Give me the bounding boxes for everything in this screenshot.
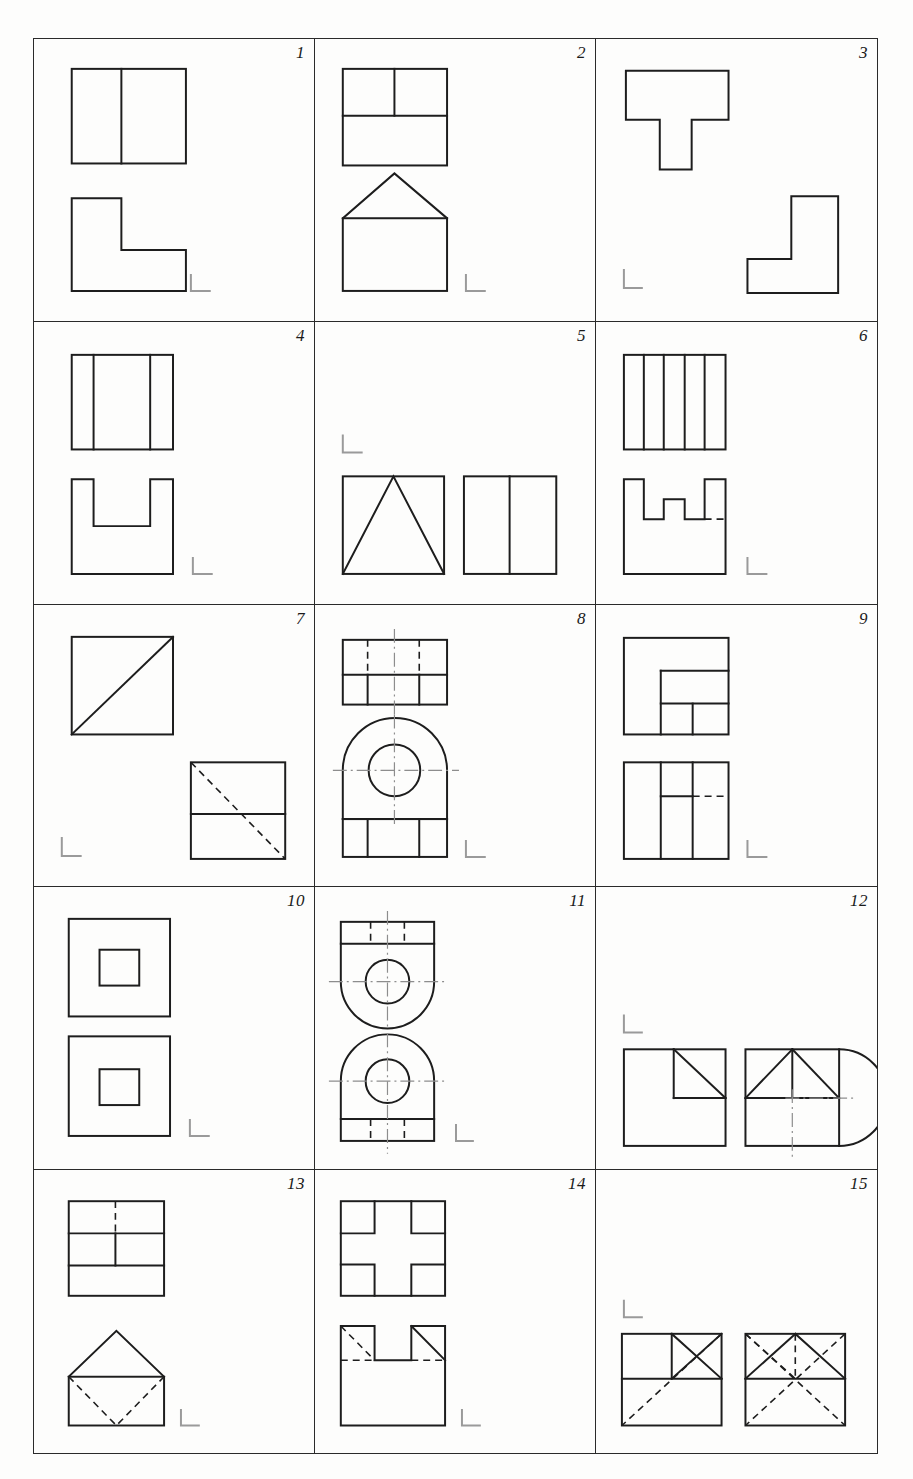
cell-4-drawing xyxy=(34,322,314,604)
worksheet-page: 1 xyxy=(0,0,913,1479)
front-view-crenellated-block xyxy=(624,479,726,574)
top-view-three-band-rectangle xyxy=(69,1201,164,1296)
sheet-border: 1 xyxy=(33,38,878,1454)
front-view-house-with-hidden-vee xyxy=(69,1331,164,1426)
exercise-cell-1[interactable]: 1 xyxy=(34,39,315,322)
view-square-with-semicircular-boss xyxy=(745,1050,877,1159)
corner-mark xyxy=(193,557,213,574)
exercise-cell-2[interactable]: 2 xyxy=(315,39,596,322)
view-square-with-diagonal xyxy=(72,636,173,734)
cell-9-drawing xyxy=(596,605,877,887)
top-view-square-with-tee-division xyxy=(343,69,447,166)
exercise-cell-10[interactable]: 10 xyxy=(34,887,315,1170)
exercise-cell-9[interactable]: 9 xyxy=(596,605,877,888)
cell-5-drawing xyxy=(315,322,595,604)
front-view-square-with-top-notch xyxy=(72,479,173,574)
corner-mark xyxy=(462,1409,481,1426)
corner-mark xyxy=(181,1409,200,1426)
exercise-cell-13[interactable]: 13 xyxy=(34,1170,315,1453)
front-view-square-with-hidden-horizontal xyxy=(624,762,729,859)
corner-mark xyxy=(747,840,767,857)
view-t-shape xyxy=(626,71,729,170)
corner-mark xyxy=(624,1300,643,1318)
corner-mark xyxy=(624,269,643,288)
top-view-square-with-plus-channel xyxy=(341,1201,445,1296)
cell-12-drawing xyxy=(596,887,877,1169)
top-view-square-with-stepped-pocket xyxy=(624,637,729,734)
top-view-square-with-centre-square xyxy=(69,919,170,1017)
exercise-cell-14[interactable]: 14 xyxy=(315,1170,596,1453)
cell-6-drawing xyxy=(596,322,877,604)
cell-7-drawing xyxy=(34,605,314,887)
exercise-cell-15[interactable]: 15 xyxy=(596,1170,877,1453)
exercise-cell-3[interactable]: 3 xyxy=(596,39,877,322)
top-view-square-three-bands xyxy=(72,355,173,450)
exercise-cell-7[interactable]: 7 xyxy=(34,605,315,888)
view-square-with-hidden-diagonal xyxy=(191,762,285,859)
front-view-arched-body-with-hole xyxy=(333,714,459,856)
cell-1-drawing xyxy=(34,39,314,321)
corner-mark xyxy=(191,274,211,291)
view-square-with-triangles-and-hidden-diagonals xyxy=(745,1334,845,1426)
cell-8-drawing xyxy=(315,605,595,887)
cell-2-drawing xyxy=(315,39,595,321)
front-view-square-with-triangle xyxy=(343,476,444,574)
exercise-cell-11[interactable]: 11 xyxy=(315,887,596,1170)
corner-mark xyxy=(747,557,767,574)
exercise-cell-5[interactable]: 5 xyxy=(315,322,596,605)
cell-13-drawing xyxy=(34,1170,314,1453)
top-view-square-five-bands xyxy=(624,355,726,450)
view-square-with-corner-cut xyxy=(624,1050,726,1147)
view-bracket-flange-up xyxy=(329,1034,446,1154)
corner-mark xyxy=(343,434,363,452)
corner-mark xyxy=(62,837,82,856)
cell-3-drawing xyxy=(596,39,877,321)
corner-mark xyxy=(190,1119,210,1136)
exercise-cell-4[interactable]: 4 xyxy=(34,322,315,605)
side-view-square-split-vertical xyxy=(464,476,556,574)
exercise-cell-12[interactable]: 12 xyxy=(596,887,877,1170)
cell-15-drawing xyxy=(596,1170,877,1453)
corner-mark xyxy=(466,840,486,857)
front-view-square-with-centre-square xyxy=(69,1037,170,1137)
top-view-banded-rectangle-with-hidden-lines xyxy=(343,628,447,716)
view-bracket-flange-down xyxy=(329,911,446,1029)
cell-14-drawing xyxy=(315,1170,595,1453)
cell-10-drawing xyxy=(34,887,314,1169)
view-square-with-x-and-hidden-diagonal xyxy=(622,1334,722,1426)
front-view-l-shape xyxy=(72,198,186,291)
front-view-house-shape xyxy=(343,173,447,290)
exercise-cell-6[interactable]: 6 xyxy=(596,322,877,605)
corner-mark xyxy=(624,1015,643,1033)
exercise-cell-8[interactable]: 8 xyxy=(315,605,596,888)
corner-mark xyxy=(456,1124,474,1141)
front-view-notched-square-with-chamfers xyxy=(341,1326,445,1425)
cell-11-drawing xyxy=(315,887,595,1169)
exercise-grid: 1 xyxy=(34,39,877,1453)
corner-mark xyxy=(466,274,486,291)
view-l-shape xyxy=(747,196,838,293)
top-view-divided-rectangle xyxy=(72,69,186,164)
